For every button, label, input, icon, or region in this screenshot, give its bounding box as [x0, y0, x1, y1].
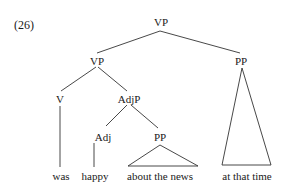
branch-adjp-to-pp [131, 105, 158, 128]
node-adj: Adj [95, 131, 112, 143]
branch-vp-to-vp [97, 31, 160, 53]
branch-vp-to-pp [160, 31, 240, 53]
leaf-at-that-time: at that time [222, 170, 271, 182]
node-v: V [56, 93, 64, 105]
leaf-about-the-news: about the news [127, 170, 193, 182]
syntax-tree-diagram: (26) VP VP PP V AdjP Adj PP was happy ab… [0, 0, 292, 189]
node-vp-root: VP [154, 16, 168, 28]
branch-adjp-to-adj [106, 105, 127, 126]
branch-vp-to-adjp [98, 67, 127, 91]
node-adjp: AdjP [118, 93, 141, 105]
node-pp-right: PP [235, 55, 247, 67]
leaf-was: was [52, 170, 69, 182]
triangle-pp-about-the-news [128, 145, 198, 166]
branch-vp-to-v [61, 67, 96, 91]
example-number: (26) [14, 19, 34, 32]
node-pp-mid: PP [154, 131, 166, 143]
tree-branches [0, 0, 292, 189]
leaf-happy: happy [82, 170, 109, 182]
node-vp-left: VP [90, 55, 104, 67]
triangle-pp-at-that-time [222, 68, 271, 165]
